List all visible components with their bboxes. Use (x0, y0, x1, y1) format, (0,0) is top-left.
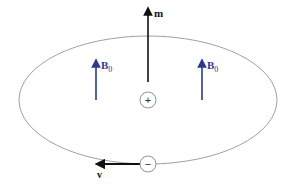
nucleus-charge-label: + (145, 94, 151, 106)
field-label-left: B0 (101, 59, 112, 74)
magnetic-moment-label: m (154, 7, 163, 19)
orbit-diagram: m B0 B0 + v − (0, 0, 292, 186)
electron-charge-label: − (145, 158, 151, 170)
field-label-right: B0 (207, 59, 218, 74)
electron: − (140, 156, 156, 172)
velocity-label: v (97, 169, 102, 180)
nucleus: + (140, 92, 156, 108)
